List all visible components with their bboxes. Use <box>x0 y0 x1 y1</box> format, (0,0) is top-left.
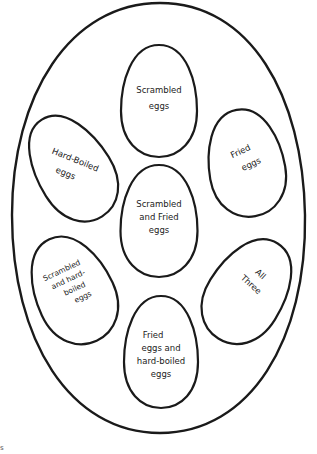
egg-scrambled-and-fried: Scrambled and Fried eggs <box>121 165 198 277</box>
egg-label: Scrambled <box>136 199 181 209</box>
egg-label: eggs <box>151 369 172 379</box>
egg-label: and Fried <box>139 212 178 222</box>
egg-label: eggs <box>149 101 170 111</box>
egg-label: Scrambled <box>136 85 181 95</box>
egg-fried-and-hard-boiled: Fried eggs and hard-boiled eggs <box>124 296 198 408</box>
egg-label: eggs and <box>141 343 180 353</box>
egg-label: eggs <box>149 225 170 235</box>
egg-diagram: Scrambled eggs Hard-Boiled eggs Fried eg… <box>0 0 317 454</box>
egg-label: Fried <box>143 330 164 340</box>
corner-mark: s <box>0 444 4 452</box>
egg-label: hard-boiled <box>137 356 185 366</box>
egg-scrambled: Scrambled eggs <box>121 45 197 157</box>
